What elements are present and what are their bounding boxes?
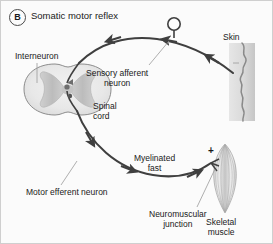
label-skeletal-line2: muscle [206, 227, 236, 237]
label-skin: Skin [223, 32, 240, 42]
label-spinal-cord-line2: cord [93, 111, 117, 121]
label-interneuron: Interneuron [15, 51, 58, 61]
label-spinal-cord-line1: Spinal [93, 101, 117, 111]
sensory-cell-body [168, 18, 180, 30]
excitatory-sign: + [208, 146, 214, 156]
skin-graphic [229, 43, 255, 121]
panel-letter-badge: B [9, 9, 26, 26]
label-motor-efferent-neuron: Motor efferent neuron [26, 187, 108, 197]
somatic-motor-reflex-figure: B Somatic motor reflex Interneuron Spina… [0, 0, 273, 244]
label-nmj-line2: junction [149, 219, 207, 229]
label-spinal-cord: Spinal cord [93, 101, 117, 121]
label-skeletal-line1: Skeletal [206, 217, 236, 227]
label-skeletal-muscle: Skeletal muscle [206, 217, 236, 237]
figure-title: Somatic motor reflex [31, 10, 118, 21]
label-sensory-line1: Sensory afferent [86, 68, 148, 78]
leader-lines [37, 41, 239, 207]
label-neuromuscular-junction: Neuromuscular junction [149, 209, 207, 229]
label-nmj-line1: Neuromuscular [149, 209, 207, 219]
label-sensory-line2: neuron [86, 78, 148, 88]
label-myelinated-line1: Myelinated [134, 153, 175, 163]
label-myelinated-line2: fast [134, 163, 175, 173]
skeletal-muscle-graphic [214, 144, 237, 213]
label-myelinated-fast: Myelinated fast [134, 153, 175, 173]
sensory-afferent-pathway [79, 18, 233, 73]
label-sensory-afferent-neuron: Sensory afferent neuron [86, 68, 148, 88]
